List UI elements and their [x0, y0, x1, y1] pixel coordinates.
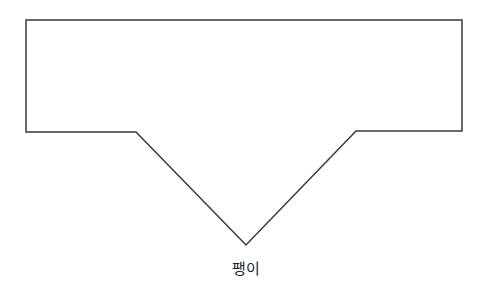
diagram-canvas — [0, 0, 482, 290]
shape-label: 팽이 — [0, 257, 482, 278]
top-shape-outline — [26, 20, 462, 245]
